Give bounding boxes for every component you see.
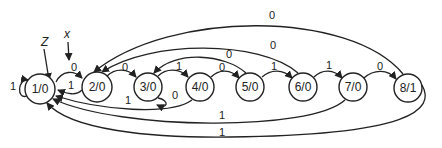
initial-arrow-z: Z: [40, 35, 49, 80]
edge-4-to-5: 0: [211, 61, 239, 78]
edge-5-to-3: 0: [154, 48, 246, 73]
state-node-2: 2/0: [82, 72, 112, 102]
svg-text:1: 1: [10, 80, 16, 92]
svg-text:3/0: 3/0: [140, 80, 157, 94]
svg-text:4/0: 4/0: [192, 80, 209, 94]
svg-text:1: 1: [271, 60, 277, 72]
svg-text:0: 0: [269, 9, 275, 21]
svg-text:6/0: 6/0: [295, 80, 312, 94]
edge-2-to-1: 1: [58, 79, 82, 94]
state-node-3: 3/0: [134, 73, 162, 101]
svg-text:7/0: 7/0: [345, 80, 362, 94]
edge-3-to-4: 1: [158, 60, 188, 77]
svg-text:1: 1: [68, 79, 74, 91]
state-node-7: 7/0: [339, 73, 367, 101]
edge-8-to-2: 0: [94, 9, 403, 74]
initial-arrow-x: x: [63, 27, 71, 60]
edge-6-to-7: 1: [314, 59, 342, 78]
svg-text:0: 0: [377, 60, 383, 72]
state-node-5: 5/0: [236, 73, 264, 101]
svg-text:1: 1: [125, 94, 131, 106]
svg-text:0: 0: [219, 61, 225, 73]
svg-text:0: 0: [270, 39, 276, 51]
svg-text:0: 0: [172, 89, 178, 101]
svg-text:1: 1: [219, 126, 225, 138]
svg-text:1: 1: [176, 60, 182, 72]
edge-5-to-6: 1: [262, 60, 292, 78]
x-input-label: x: [63, 27, 71, 41]
svg-text:1/0: 1/0: [32, 82, 49, 96]
state-node-6: 6/0: [289, 73, 317, 101]
state-diagram: Z x 1 0 1 0 0 1 1 0 0 1: [0, 0, 442, 148]
svg-text:1: 1: [326, 59, 332, 71]
svg-text:0: 0: [122, 61, 128, 73]
state-node-1: 1/0: [25, 74, 55, 104]
svg-text:8/1: 8/1: [400, 81, 417, 95]
svg-text:0: 0: [71, 61, 77, 73]
svg-text:5/0: 5/0: [242, 80, 259, 94]
z-input-label: Z: [40, 35, 49, 49]
edge-2-to-3: 0: [107, 61, 136, 77]
svg-text:1: 1: [219, 109, 225, 121]
state-node-4: 4/0: [186, 73, 214, 101]
state-node-8: 8/1: [394, 74, 422, 102]
edge-6-to-2: 0: [102, 39, 298, 73]
svg-text:2/0: 2/0: [89, 80, 106, 94]
